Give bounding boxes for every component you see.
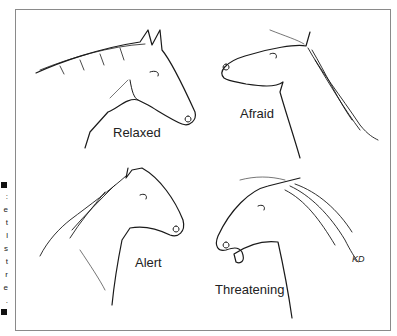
horse-threatening-illustration bbox=[0, 0, 397, 336]
artist-signature: KD bbox=[352, 254, 365, 264]
label-threatening: Threatening bbox=[215, 282, 284, 297]
